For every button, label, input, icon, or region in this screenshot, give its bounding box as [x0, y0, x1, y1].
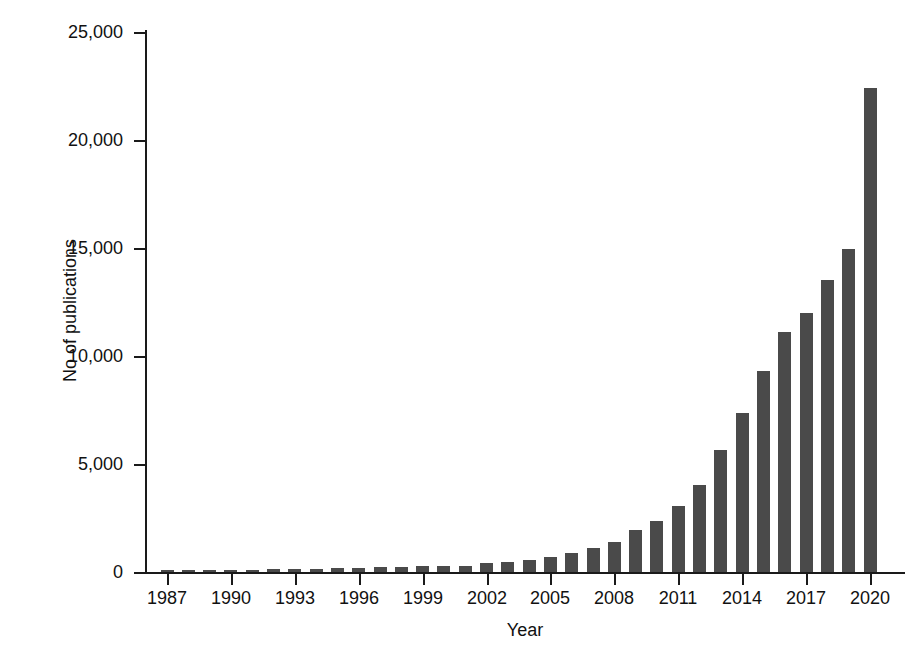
x-axis-tick-label: 2020 [830, 588, 910, 609]
y-axis-tick-label: 0 [23, 563, 123, 581]
x-axis-title: Year [145, 620, 905, 641]
bar [523, 560, 536, 572]
bar [608, 542, 621, 572]
bar [736, 413, 749, 572]
bar [757, 371, 770, 572]
x-axis-tick [678, 574, 680, 585]
x-axis-tick [487, 574, 489, 585]
x-axis-tick [550, 574, 552, 585]
bar [587, 548, 600, 572]
bar [650, 521, 663, 572]
y-axis-line [145, 30, 147, 574]
bar [544, 557, 557, 572]
bar [821, 280, 834, 572]
bar [672, 506, 685, 572]
y-axis-title: No of publications [60, 181, 81, 441]
y-axis-tick [134, 32, 145, 34]
x-axis-line [145, 572, 905, 574]
y-axis-tick-label: 25,000 [23, 23, 123, 41]
x-axis-tick [870, 574, 872, 585]
bar [693, 485, 706, 572]
x-axis-tick [295, 574, 297, 585]
y-axis-tick [134, 572, 145, 574]
x-axis-tick [423, 574, 425, 585]
y-axis-tick [134, 140, 145, 142]
x-axis-tick [359, 574, 361, 585]
x-axis-tick [167, 574, 169, 585]
bar [501, 562, 514, 572]
bar [629, 530, 642, 572]
y-axis-tick [134, 248, 145, 250]
y-axis-tick-label: 10,000 [23, 347, 123, 365]
x-axis-tick [231, 574, 233, 585]
bar [714, 450, 727, 572]
bar [480, 563, 493, 572]
bar [565, 553, 578, 572]
y-axis-tick-label: 5,000 [23, 455, 123, 473]
y-axis-tick [134, 464, 145, 466]
x-axis-tick [614, 574, 616, 585]
y-axis-tick-label: 20,000 [23, 131, 123, 149]
x-axis-tick [806, 574, 808, 585]
bar [864, 88, 877, 572]
bar [842, 249, 855, 572]
y-axis-tick-label: 15,000 [23, 239, 123, 257]
x-axis-tick [742, 574, 744, 585]
bar-chart: No of publications 05,00010,00015,00020,… [0, 0, 924, 667]
bar [778, 332, 791, 572]
bar [800, 313, 813, 572]
y-axis-tick [134, 356, 145, 358]
